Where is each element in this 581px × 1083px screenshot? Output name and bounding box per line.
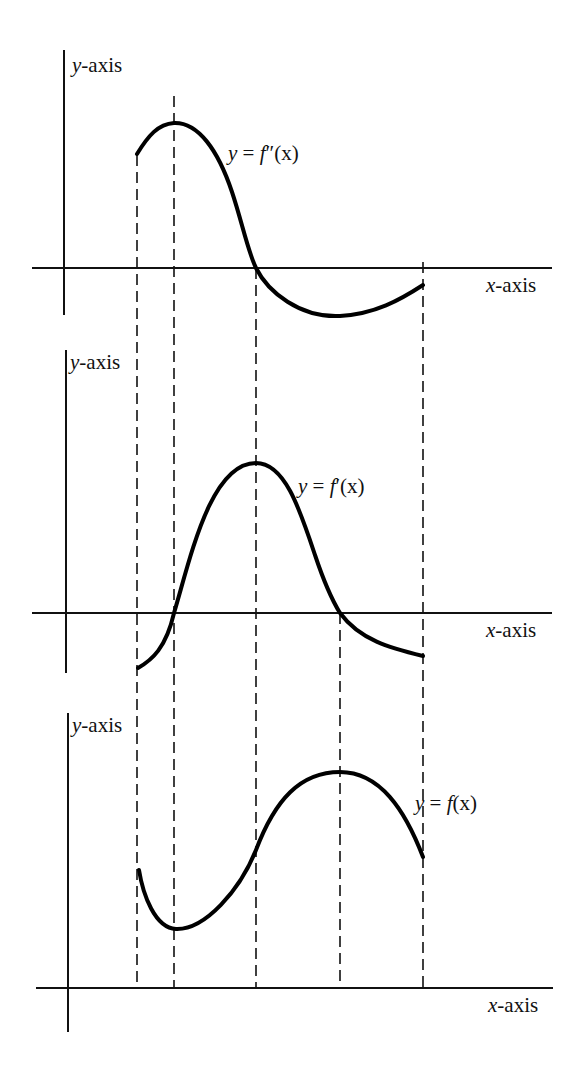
- panel-second-derivative: y-axis x-axis y = f″(x): [32, 50, 552, 316]
- derivative-graphs-diagram: y-axis x-axis y = f″(x) y-axis x-axis y …: [0, 0, 581, 1083]
- y-axis-label: y-axis: [70, 713, 122, 737]
- panel-first-derivative: y-axis x-axis y = f′(x): [32, 350, 552, 673]
- curve-f: [139, 772, 423, 929]
- dashed-guide-lines: [137, 96, 423, 988]
- x-axis-label: x-axis: [485, 618, 536, 642]
- curve-f-prime: [138, 463, 423, 668]
- x-axis-label: x-axis: [485, 273, 536, 297]
- curve-label-f: y = f(x): [413, 791, 477, 815]
- curve-label-f-prime: y = f′(x): [296, 474, 365, 498]
- panel-function: y-axis x-axis y = f(x): [36, 713, 553, 1032]
- y-axis-label: y-axis: [70, 53, 122, 77]
- x-axis-label: x-axis: [487, 993, 538, 1017]
- y-axis-label: y-axis: [68, 350, 120, 374]
- curve-label-f-double-prime: y = f″(x): [226, 141, 299, 165]
